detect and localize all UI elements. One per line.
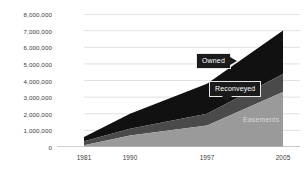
annotation-easements: Easements	[243, 116, 279, 123]
annotation-reconveyed-label: Reconveyed	[215, 85, 255, 92]
callout-pointer-icon	[230, 57, 237, 65]
x-axis-tick-label: 2005	[276, 154, 291, 161]
callout-pointer-icon	[222, 96, 232, 102]
x-axis-tick-label: 1981	[77, 154, 92, 161]
x-axis-tick-label: 1997	[200, 154, 215, 161]
annotation-reconveyed: Reconveyed	[209, 81, 261, 97]
stacked-area-chart: 8,000,000 7,000,000 6,000,000 5,000,000 …	[0, 0, 306, 175]
annotation-owned-label: Owned	[202, 57, 225, 64]
annotation-owned: Owned	[196, 53, 231, 69]
x-axis-tick-label: 1990	[123, 154, 138, 161]
